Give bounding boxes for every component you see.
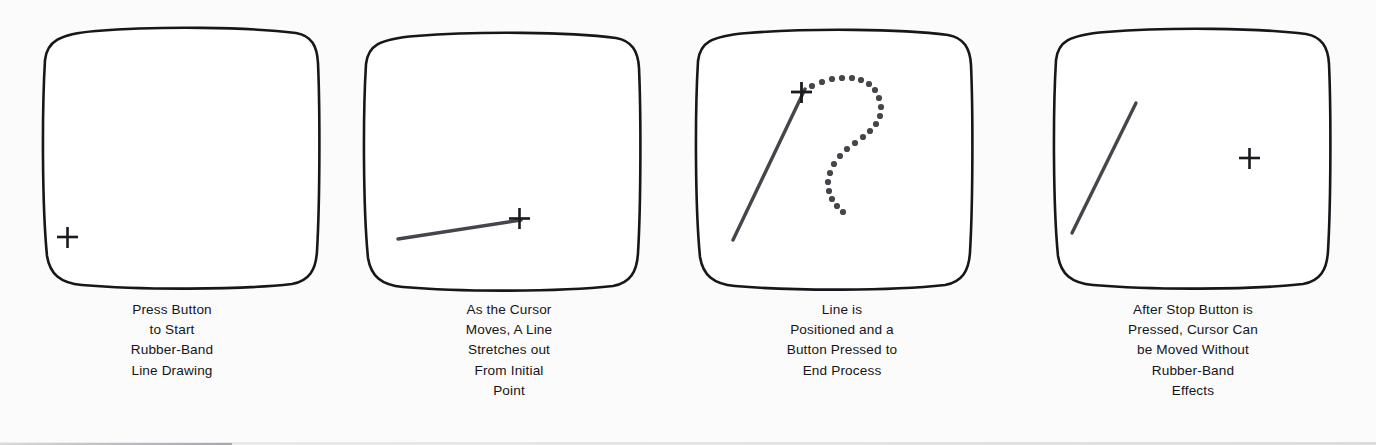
panel-2-caption: As the Cursor Moves, A Line Stretches ou… xyxy=(344,300,674,401)
caption-line: Point xyxy=(344,381,674,401)
crt-screen-3-drawing xyxy=(674,0,1010,300)
caption-line: After Stop Button is xyxy=(1010,300,1376,320)
crt-screen-2 xyxy=(344,0,674,300)
crt-bezel-outline-4 xyxy=(1054,29,1330,289)
caption-line: to Start xyxy=(0,320,344,340)
caption-line: Positioned and a xyxy=(674,320,1010,340)
caption-line: Line Drawing xyxy=(0,361,344,381)
panel-4-caption: After Stop Button is Pressed, Cursor Can… xyxy=(1010,300,1376,401)
panel-3-caption: Line is Positioned and a Button Pressed … xyxy=(674,300,1010,381)
panel-1-caption: Press Button to Start Rubber-Band Line D… xyxy=(0,300,344,381)
crt-screen-4 xyxy=(1010,0,1376,300)
caption-line: Moves, A Line xyxy=(344,320,674,340)
crt-screen-2-drawing xyxy=(344,0,674,300)
crt-screen-3 xyxy=(674,0,1010,300)
caption-line: Stretches out xyxy=(344,340,674,360)
crt-screen-4-drawing xyxy=(1010,0,1376,300)
panel-1: Press Button to Start Rubber-Band Line D… xyxy=(0,0,344,445)
crt-screen-1-drawing xyxy=(0,0,344,300)
caption-line: Rubber-Band xyxy=(0,340,344,360)
crt-bezel-outline-1 xyxy=(43,28,319,289)
caption-line: From Initial xyxy=(344,361,674,381)
caption-line: End Process xyxy=(674,361,1010,381)
crt-bezel-outline-2 xyxy=(364,33,640,291)
caption-line: be Moved Without xyxy=(1010,340,1376,360)
caption-line: Line is xyxy=(674,300,1010,320)
panel-3: Line is Positioned and a Button Pressed … xyxy=(674,0,1010,445)
caption-line: Button Pressed to xyxy=(674,340,1010,360)
caption-line: As the Cursor xyxy=(344,300,674,320)
panel-2: As the Cursor Moves, A Line Stretches ou… xyxy=(344,0,674,445)
caption-line: Press Button xyxy=(0,300,344,320)
caption-line: Pressed, Cursor Can xyxy=(1010,320,1376,340)
figure-root: Press Button to Start Rubber-Band Line D… xyxy=(0,0,1376,445)
panel-4: After Stop Button is Pressed, Cursor Can… xyxy=(1010,0,1376,445)
caption-line: Rubber-Band xyxy=(1010,361,1376,381)
crt-screen-1 xyxy=(0,0,344,300)
crt-bezel-outline-3 xyxy=(696,30,972,290)
caption-line: Effects xyxy=(1010,381,1376,401)
